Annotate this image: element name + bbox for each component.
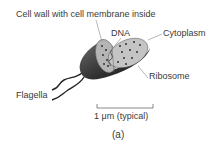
label-cytoplasm: Cytoplasm [163,28,206,38]
label-dna: DNA [111,28,130,38]
label-cell-wall: Cell wall with cell membrane inside [16,9,156,19]
label-ribosome: Ribosome [149,71,190,81]
label-flagella: Flagella [16,90,48,100]
flagella-shape [52,73,82,90]
figure-caption: (a) [112,129,124,140]
label-scale: 1 μm (typical) [94,111,148,121]
scale-bar [97,104,153,108]
